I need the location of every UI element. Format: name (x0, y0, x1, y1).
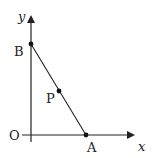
x-axis-label: x (138, 139, 146, 154)
origin-label: O (9, 128, 20, 143)
point-a-label: A (86, 140, 97, 155)
y-axis-label: y (17, 9, 26, 24)
point-a (84, 133, 89, 138)
point-p-label: P (46, 91, 55, 106)
point-b (29, 42, 34, 47)
point-p (57, 89, 62, 94)
point-b-label: B (14, 44, 24, 59)
coordinate-diagram: y x O B P A (0, 0, 155, 158)
